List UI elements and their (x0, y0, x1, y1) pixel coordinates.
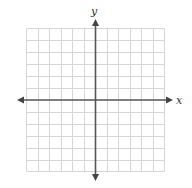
y-axis-bottom-arrow-icon (92, 174, 99, 181)
x-axis-label: x (176, 94, 183, 107)
x-axis-left-arrow-icon (17, 97, 24, 104)
x-axis-right-arrow-icon (166, 97, 173, 104)
y-axis-top-arrow-icon (92, 19, 99, 26)
coordinate-plane: x y (0, 0, 192, 188)
y-axis-label: y (90, 5, 98, 18)
